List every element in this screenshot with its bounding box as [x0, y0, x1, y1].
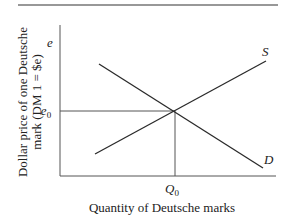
demand-label: D	[263, 152, 274, 167]
demand-curve	[99, 64, 263, 168]
y-tick-e: e	[47, 35, 53, 50]
x-tick-q0: Q0	[165, 181, 179, 198]
y-axis-label-line2: mark (DM 1 = $e)	[29, 54, 44, 149]
supply-label: S	[262, 44, 269, 59]
x-axis-label: Quantity of Deutsche marks	[89, 200, 235, 215]
supply-curve	[95, 61, 266, 154]
y-axis-label: Dollar price of one Deutsche mark (DM 1 …	[15, 27, 44, 177]
supply-demand-diagram: S D e e0 Q0 Quantity of Deutsche marks D…	[0, 0, 290, 219]
y-axis-label-line1: Dollar price of one Deutsche	[15, 27, 30, 177]
